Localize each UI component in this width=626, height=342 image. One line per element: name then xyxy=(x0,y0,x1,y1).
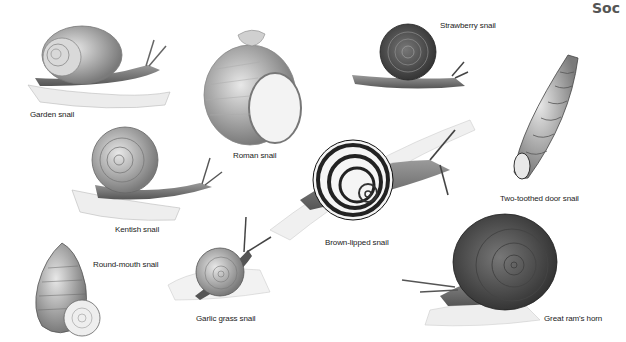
garlic-grass-snail-illustration xyxy=(168,217,271,300)
snail-illustrations xyxy=(0,0,626,342)
label-garden-snail: Garden snail xyxy=(30,110,74,119)
label-two-toothed-door-snail: Two-toothed door snail xyxy=(500,194,579,203)
label-brown-lipped-snail: Brown-lipped snail xyxy=(325,238,389,247)
roman-snail-illustration xyxy=(204,30,301,145)
strawberry-snail-illustration xyxy=(352,24,468,89)
brown-lipped-snail-illustration xyxy=(270,120,475,240)
label-great-rams-horn: Great ram's horn xyxy=(544,314,602,323)
garden-snail-illustration xyxy=(28,26,170,108)
label-roman-snail: Roman snail xyxy=(233,151,276,160)
great-rams-horn-illustration xyxy=(402,214,557,326)
label-kentish-snail: Kentish snail xyxy=(115,225,159,234)
round-mouth-snail-illustration xyxy=(36,243,100,336)
two-toothed-door-snail-illustration xyxy=(514,55,578,179)
label-round-mouth-snail: Round-mouth snail xyxy=(93,260,158,269)
label-strawberry-snail: Strawberry snail xyxy=(440,21,496,30)
kentish-snail-illustration xyxy=(72,127,222,220)
label-garlic-grass-snail: Garlic grass snail xyxy=(196,314,256,323)
corner-text: Soc xyxy=(592,0,620,16)
